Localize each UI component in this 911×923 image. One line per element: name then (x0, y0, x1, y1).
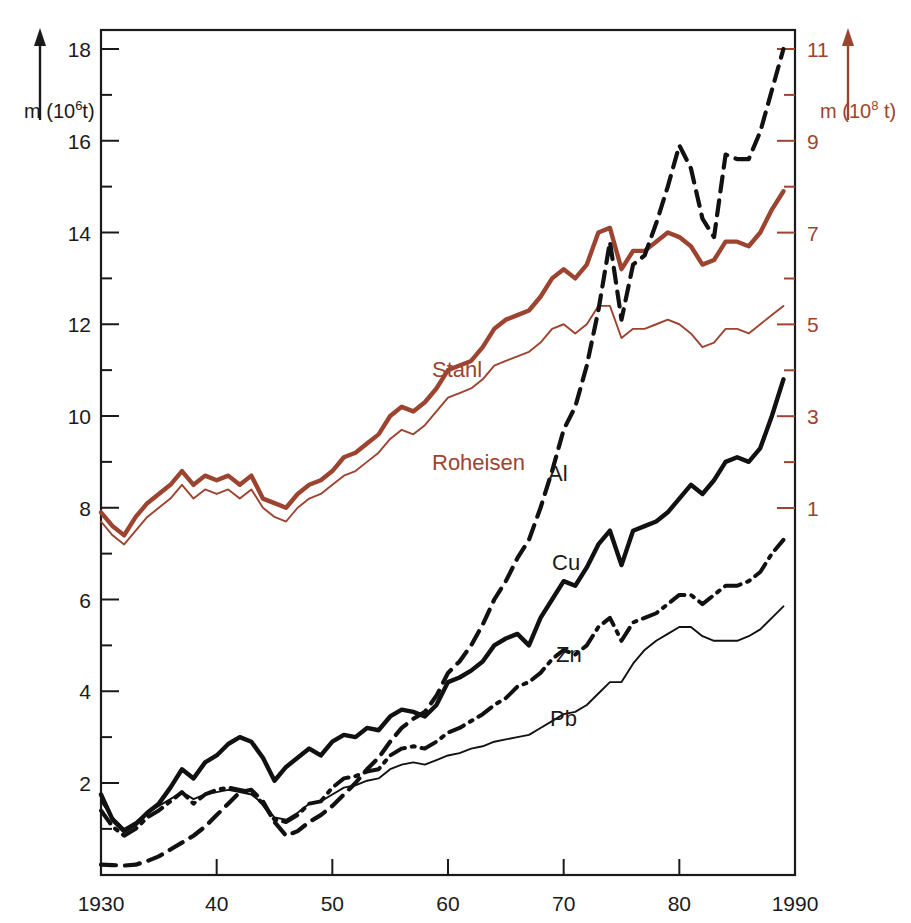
series-path-pb (101, 606, 783, 829)
x-tick-label: 50 (321, 892, 344, 915)
x-tick-label: 40 (205, 892, 228, 915)
series-label-pb: Pb (550, 706, 577, 731)
right-tick-label: 11 (807, 38, 829, 61)
left-tick-label: 12 (68, 313, 91, 336)
series-path-roheisen (101, 306, 783, 545)
right-tick-label: 1 (807, 497, 819, 520)
right-tick-label: 3 (807, 405, 819, 428)
right-axis-unit-label: m (108 t) (820, 98, 896, 122)
left-tick-label: 2 (79, 772, 91, 795)
series-path-zn (101, 540, 783, 836)
left-axis-ticks: 24681012141618 (68, 38, 119, 829)
figure-container: m (106t) m (108 t) 24681012141618 135791… (0, 0, 911, 923)
left-tick-label: 6 (79, 589, 91, 612)
x-tick-label: 70 (552, 892, 575, 915)
right-tick-label: 7 (807, 222, 819, 245)
series-label-roheisen: Roheisen (432, 450, 525, 475)
right-tick-label: 5 (807, 313, 819, 336)
left-tick-label: 18 (68, 38, 91, 61)
left-tick-label: 8 (79, 497, 91, 520)
left-tick-label: 4 (79, 680, 91, 703)
series-label-cu: Cu (552, 550, 580, 575)
x-tick-label: 1930 (78, 892, 125, 915)
series-path-cu (101, 379, 783, 831)
right-tick-label: 9 (807, 130, 819, 153)
left-axis-unit-label: m (106t) (24, 98, 95, 122)
left-tick-label: 16 (68, 130, 91, 153)
x-tick-label: 60 (436, 892, 459, 915)
series-label-stahl: Stahl (432, 357, 482, 382)
left-tick-label: 10 (68, 405, 91, 428)
x-tick-label: 80 (668, 892, 691, 915)
series-label-al: Al (548, 461, 568, 486)
series-label-zn: Zn (556, 642, 582, 667)
x-axis-ticks: 193040506070801990 (78, 859, 819, 915)
line-chart: m (106t) m (108 t) 24681012141618 135791… (0, 0, 911, 923)
x-tick-label: 1990 (772, 892, 819, 915)
left-tick-label: 14 (68, 222, 92, 245)
